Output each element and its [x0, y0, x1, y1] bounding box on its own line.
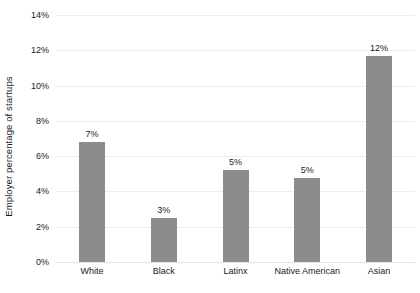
x-tick-label: Black [153, 266, 175, 276]
bar-value-label: 5% [229, 157, 242, 167]
bar-chart: Employer percentage of startups 0%2%4%6%… [0, 0, 420, 293]
gridline-0pct: 0% [56, 262, 415, 263]
bar-value-label: 12% [370, 43, 388, 53]
bar[interactable] [223, 170, 249, 262]
y-tick-label: 8% [36, 116, 49, 126]
y-tick-label: 0% [36, 257, 49, 267]
bar-value-label: 3% [157, 205, 170, 215]
bar[interactable] [79, 142, 105, 262]
x-tick-label: Asian [368, 266, 391, 276]
y-tick-label: 12% [31, 45, 49, 55]
bar-group[interactable]: 3% [151, 15, 177, 262]
bar-group[interactable]: 12% [366, 15, 392, 262]
y-tick-label: 2% [36, 222, 49, 232]
bar-group[interactable]: 5% [294, 15, 320, 262]
y-tick-label: 4% [36, 186, 49, 196]
y-tick-label: 10% [31, 81, 49, 91]
bar[interactable] [294, 178, 320, 262]
bar-value-label: 5% [301, 165, 314, 175]
y-tick-label: 14% [31, 10, 49, 20]
y-tick-label: 6% [36, 151, 49, 161]
bars-layer: 7%3%5%5%12% [56, 15, 415, 262]
plot-area: 0%2%4%6%8%10%12%14% 7%3%5%5%12% [56, 15, 415, 262]
bar-value-label: 7% [85, 129, 98, 139]
x-axis-labels: WhiteBlackLatinxNative AmericanAsian [56, 266, 415, 282]
y-axis-title: Employer percentage of startups [0, 0, 16, 293]
bar-group[interactable]: 5% [223, 15, 249, 262]
bar[interactable] [366, 56, 392, 262]
x-tick-label: White [80, 266, 103, 276]
x-tick-label: Native American [275, 266, 341, 276]
bar[interactable] [151, 218, 177, 262]
x-tick-label: Latinx [223, 266, 247, 276]
bar-group[interactable]: 7% [79, 15, 105, 262]
